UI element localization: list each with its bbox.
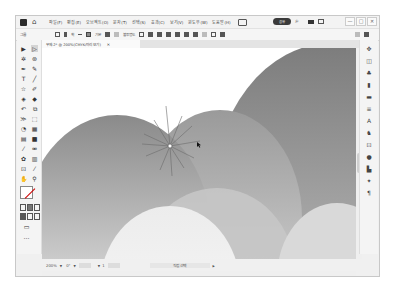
variable-width-profile[interactable] — [86, 32, 91, 37]
menu-help[interactable]: 도움말(H) — [212, 19, 230, 26]
type-tool-icon[interactable]: T — [20, 75, 27, 82]
width-tool-icon[interactable]: ≫ — [20, 115, 27, 122]
mesh-tool-icon[interactable]: ▤ — [20, 135, 27, 142]
menu-window[interactable]: 윈도우(W) — [188, 19, 207, 26]
align-middle-icon[interactable] — [184, 32, 189, 37]
maximize-button[interactable]: □ — [356, 17, 366, 26]
color-button[interactable] — [20, 204, 26, 211]
draw-inside-button[interactable] — [34, 213, 40, 220]
menu-file[interactable]: 파일(F) — [49, 19, 62, 26]
stroke-panel-icon[interactable]: ≡ — [366, 106, 372, 112]
chevron-right-icon[interactable]: ▶ — [213, 264, 215, 268]
layers-panel-icon[interactable]: ◫ — [366, 58, 372, 64]
isolate-icon[interactable] — [211, 32, 216, 37]
selected-anchor-point[interactable] — [168, 144, 172, 148]
artboard-nav-prev[interactable] — [79, 263, 91, 268]
magic-wand-tool-icon[interactable]: ✲ — [20, 55, 27, 62]
menu-type[interactable]: 문자(T) — [113, 19, 127, 26]
libraries-panel-icon[interactable]: ♣ — [366, 70, 372, 76]
curvature-tool-icon[interactable]: ✎ — [31, 65, 38, 72]
chevron-down-icon[interactable]: ▼ — [98, 264, 100, 268]
transform-panel-icon[interactable]: ✦ — [366, 178, 372, 184]
graphic-styles-panel-icon[interactable]: ▙ — [366, 166, 372, 172]
selection-tool-icon[interactable]: ▶ — [20, 45, 27, 52]
eyedropper-tool-icon[interactable]: ⁄ — [20, 145, 27, 152]
shaper-tool-icon[interactable]: ◈ — [20, 95, 27, 102]
workspace-icon[interactable] — [318, 19, 324, 24]
current-tool-label[interactable]: 직접 선택 — [150, 263, 210, 268]
stroke-swatch[interactable] — [64, 32, 67, 37]
paragraph-panel-icon[interactable]: ¶ — [366, 190, 372, 196]
artboards-panel-icon[interactable]: ⊡ — [366, 142, 372, 148]
perspective-tool-icon[interactable]: ▦ — [31, 125, 38, 132]
recolor-artwork-icon[interactable] — [139, 32, 144, 37]
line-tool-icon[interactable]: ╱ — [31, 75, 38, 82]
stroke-label[interactable]: 획 — [71, 32, 74, 37]
panel-options-icon[interactable] — [364, 32, 369, 37]
document-tab[interactable]: 무제-2* @ 200%(CMYK/미리 보기) ✕ — [42, 40, 140, 48]
pen-tool-icon[interactable]: ✒ — [20, 65, 27, 72]
blend-tool-icon[interactable]: ⚮ — [31, 145, 38, 152]
none-button[interactable] — [34, 204, 40, 211]
fill-stroke-widget[interactable] — [20, 186, 38, 202]
color-panel-icon[interactable]: ▮ — [366, 82, 372, 88]
tab-close-icon[interactable]: ✕ — [107, 42, 110, 47]
rectangle-tool-icon[interactable]: ☆ — [20, 85, 27, 92]
artboard-field[interactable]: ▼1 — [95, 263, 105, 268]
screen-mode-icon[interactable]: ▭ — [23, 223, 30, 230]
align-left-icon[interactable] — [148, 32, 153, 37]
lasso-tool-icon[interactable]: ⊛ — [31, 55, 38, 62]
symbol-sprayer-tool-icon[interactable]: ✿ — [20, 155, 27, 162]
menu-edit[interactable]: 편집(E) — [67, 19, 81, 26]
brush-definition-icon[interactable] — [105, 32, 110, 37]
zoom-field[interactable]: 200%▼ — [46, 263, 62, 268]
eraser-tool-icon[interactable]: ◆ — [31, 95, 38, 102]
symbols-panel-icon[interactable]: ♞ — [366, 130, 372, 136]
menu-view[interactable]: 보기(V) — [170, 19, 184, 26]
draw-normal-button[interactable] — [20, 213, 26, 220]
graph-tool-icon[interactable]: ▥ — [31, 155, 38, 162]
transform-icon[interactable] — [202, 32, 207, 37]
align-top-icon[interactable] — [175, 32, 180, 37]
scale-tool-icon[interactable]: ⧉ — [31, 105, 38, 112]
artboard-canvas[interactable] — [42, 48, 356, 259]
gradient-button[interactable] — [27, 204, 33, 211]
opacity-label[interactable]: 불투명도 — [123, 32, 135, 37]
edit-toolbar-icon[interactable]: … — [23, 233, 30, 240]
artboard-tool-icon[interactable]: ⊡ — [20, 165, 27, 172]
menu-object[interactable]: 오브젝트(O) — [86, 19, 108, 26]
rotation-field[interactable]: 0°▼ — [66, 263, 76, 268]
style-label[interactable]: 기본 — [95, 32, 101, 37]
character-panel-icon[interactable]: A — [366, 118, 372, 124]
gradient-tool-icon[interactable]: ■ — [31, 135, 38, 142]
chevron-down-icon[interactable]: ▼ — [60, 264, 62, 268]
align-center-icon[interactable] — [157, 32, 162, 37]
horizontal-scrollbar[interactable] — [42, 271, 356, 276]
arrange-icon[interactable] — [355, 32, 360, 37]
properties-panel-icon[interactable]: ✥ — [366, 46, 372, 52]
close-button[interactable]: ✕ — [367, 17, 377, 26]
chevron-down-icon[interactable]: ▼ — [74, 264, 76, 268]
align-bottom-icon[interactable] — [193, 32, 198, 37]
menu-select[interactable]: 선택(S) — [132, 19, 146, 26]
slice-tool-icon[interactable]: ⁄ — [31, 165, 38, 172]
paintbrush-tool-icon[interactable]: ✐ — [31, 85, 38, 92]
rotate-tool-icon[interactable]: ↶ — [20, 105, 27, 112]
artboard-nav-next[interactable] — [108, 263, 120, 268]
share-button[interactable]: 공유 — [273, 18, 291, 25]
align-right-icon[interactable] — [166, 32, 171, 37]
puppet-warp-icon[interactable] — [220, 32, 225, 37]
appearance-panel-icon[interactable]: ● — [366, 154, 372, 160]
search-icon[interactable]: ⌕ — [295, 17, 299, 25]
menu-effect[interactable]: 효과(C) — [151, 19, 165, 26]
zoom-tool-icon[interactable]: ⚲ — [31, 175, 38, 182]
workspace-switcher-icon[interactable] — [238, 19, 247, 26]
home-icon[interactable]: ⌂ — [32, 19, 39, 26]
swatches-panel-icon[interactable]: ▬ — [366, 94, 372, 100]
free-transform-tool-icon[interactable]: ⬚ — [31, 115, 38, 122]
shape-builder-tool-icon[interactable]: ◔ — [20, 125, 27, 132]
arrange-documents-icon[interactable] — [308, 20, 314, 24]
direct-selection-tool-icon[interactable]: ▷ — [31, 45, 38, 52]
minimize-button[interactable]: — — [345, 17, 355, 26]
stroke-weight-icon[interactable] — [78, 34, 82, 35]
